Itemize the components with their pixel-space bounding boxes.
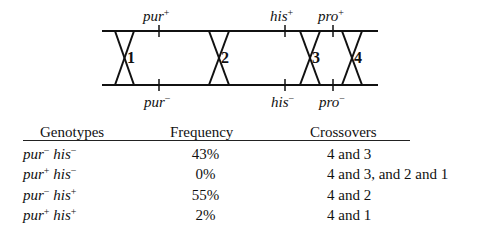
table-row: pur− his− 43% 4 and 3 <box>23 144 423 164</box>
allele-sign: + <box>338 7 344 18</box>
crossover-1-label: 1 <box>127 50 135 66</box>
gene-name: pur <box>144 94 165 110</box>
header-genotypes: Genotypes <box>40 124 104 140</box>
frequency-cell: 43% <box>173 144 238 164</box>
crossover-3-label: 3 <box>312 50 320 66</box>
allele-sign: − <box>289 93 295 104</box>
genotype-cell: pur− his− <box>23 144 76 164</box>
crossover-2-label: 2 <box>221 50 229 66</box>
table-row: pur+ his+ 2% 4 and 1 <box>23 205 423 225</box>
crossovers-cell: 4 and 1 <box>327 205 371 225</box>
gene-name: his <box>271 94 289 110</box>
header-rule <box>23 140 410 141</box>
gene-name: pro <box>319 94 339 110</box>
frequency-cell: 2% <box>173 205 238 225</box>
genotype-cell: pur+ his− <box>23 164 76 184</box>
crossovers-cell: 4 and 3 <box>327 144 371 164</box>
header-frequency: Frequency <box>170 124 233 140</box>
allele-sign: + <box>164 7 170 18</box>
chromosome-lines <box>0 0 479 120</box>
allele-sign: + <box>288 7 294 18</box>
frequency-cell: 55% <box>173 185 238 205</box>
pro-minus-label: pro− <box>319 95 345 110</box>
frequency-cell: 0% <box>173 164 238 184</box>
allele-sign: − <box>165 93 171 104</box>
genotype-cell: pur− his+ <box>23 185 76 205</box>
header-crossovers: Crossovers <box>310 124 377 140</box>
allele-sign: − <box>339 93 345 104</box>
crossover-diagram: pur+ pur− his+ his− pro+ pro− 1 2 3 4 <box>0 0 479 120</box>
crossovers-cell: 4 and 3, and 2 and 1 <box>327 164 448 184</box>
crossover-4-label: 4 <box>354 50 362 66</box>
genotype-cell: pur+ his+ <box>23 205 76 225</box>
table-row: pur+ his− 0% 4 and 3, and 2 and 1 <box>23 164 423 184</box>
gene-name: pur <box>143 8 164 24</box>
pur-plus-label: pur+ <box>143 9 169 24</box>
pro-plus-label: pro+ <box>318 9 344 24</box>
his-minus-label: his− <box>271 95 294 110</box>
pur-minus-label: pur− <box>144 95 170 110</box>
table-row: pur− his+ 55% 4 and 2 <box>23 185 423 205</box>
gene-name: his <box>270 8 288 24</box>
gene-name: pro <box>318 8 338 24</box>
crossovers-cell: 4 and 2 <box>327 185 371 205</box>
his-plus-label: his+ <box>270 9 293 24</box>
